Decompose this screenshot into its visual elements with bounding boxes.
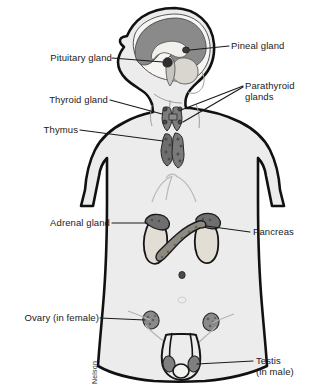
thyroid-isthmus	[169, 114, 177, 120]
parathyroid-gland-1	[163, 107, 167, 111]
label-testis-line2: (in male)	[256, 366, 316, 377]
label-pancreas: Pancreas	[253, 226, 317, 237]
label-thymus: Thymus	[16, 124, 78, 135]
navel	[179, 271, 185, 278]
endocrine-system-diagram: Pituitary gland Pineal gland Thyroid gla…	[0, 0, 318, 390]
label-parathyroid-glands: Parathyroid glands	[245, 80, 318, 102]
label-ovary: Ovary (in female)	[4, 312, 99, 323]
label-testis-line1: Testis	[256, 355, 316, 366]
parathyroid-gland-3	[163, 120, 167, 124]
parathyroid-gland-2	[178, 107, 182, 111]
label-testis: Testis (in male)	[256, 355, 316, 377]
label-thyroid-gland: Thyroid gland	[16, 94, 108, 105]
penis-shape	[173, 364, 189, 378]
cerebellum	[172, 58, 198, 84]
testis-group	[162, 333, 201, 380]
label-pineal-gland: Pineal gland	[231, 40, 317, 51]
parathyroid-gland-4	[178, 120, 182, 124]
label-parathyroid-line1: Parathyroid	[245, 80, 318, 91]
label-pituitary-gland: Pituitary gland	[16, 52, 112, 63]
illustrator-credit: Nelson	[91, 361, 98, 384]
label-adrenal-gland: Adrenal gland	[10, 217, 110, 228]
label-parathyroid-line2: glands	[245, 91, 318, 102]
pituitary-gland	[163, 58, 172, 67]
pineal-gland	[183, 47, 190, 53]
